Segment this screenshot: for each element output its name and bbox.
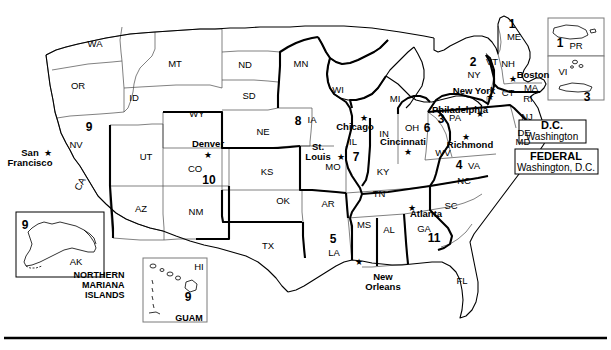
alaska-inset (16, 212, 104, 277)
caribbean-inset (548, 18, 604, 100)
federal-box: FEDERALWashington, D.C. (517, 151, 595, 173)
federal-box-subtitle: Washington, D.C. (517, 162, 595, 173)
federal-box-title: FEDERAL (517, 151, 595, 162)
dc-box: D.C.Washington (526, 120, 578, 142)
pacific-inset (143, 258, 207, 322)
dc-box-subtitle: Washington (526, 131, 578, 142)
judicial-circuits-map (0, 0, 611, 350)
dc-box-title: D.C. (526, 120, 578, 131)
